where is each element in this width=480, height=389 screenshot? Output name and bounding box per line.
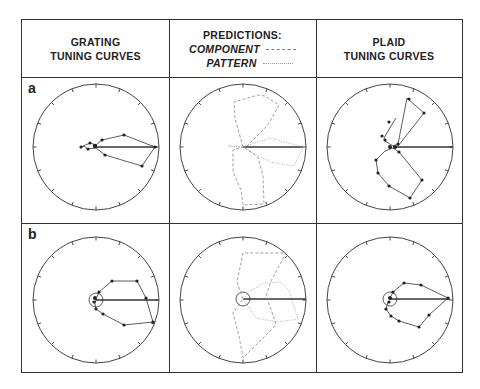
polar-tick [38,323,41,324]
polar-tick [151,170,154,171]
polar-tick [298,170,301,171]
polar-b-grating [89,279,158,326]
polar-tick [198,189,200,191]
polar-tick [38,276,41,277]
polar-tick [151,123,154,124]
polar-tick [413,242,414,245]
polar-tick [366,89,367,92]
polar-tick [413,89,414,92]
polar-tick [432,255,434,257]
polar-tick [219,242,220,245]
polar-tick [51,255,53,257]
polar-tick [198,342,200,344]
polar-tick [332,276,335,277]
polar-b-predictions [233,253,306,358]
polar-tick [185,323,188,324]
polar-tick [332,323,335,324]
polar-plots [0,0,480,389]
polar-tick [285,102,287,104]
polar-tick [298,323,301,324]
polar-tick [285,342,287,344]
polar-tick [266,202,267,205]
polar-tick [345,189,347,191]
polar-tick [266,89,267,92]
polar-tick [298,123,301,124]
polar-tick [345,342,347,344]
polar-tick [198,102,200,104]
polar-tick [185,123,188,124]
polar-tick [119,202,120,205]
polar-a-grating [79,133,157,167]
polar-tick [51,342,53,344]
polar-tick [138,255,140,257]
polar-tick [445,123,448,124]
polar-tick [285,189,287,191]
polar-tick [298,276,301,277]
polar-tick [51,189,53,191]
polar-b-plaid [383,281,450,328]
polar-tick [266,242,267,245]
polar-a-predictions [228,95,303,205]
polar-tick [138,189,140,191]
polar-tick [445,170,448,171]
polar-tick [366,355,367,358]
polar-tick [285,255,287,257]
polar-tick [432,189,434,191]
polar-tick [138,102,140,104]
polar-tick [219,355,220,358]
polar-tick [72,355,73,358]
polar-tick [51,102,53,104]
polar-tick [219,89,220,92]
polar-tick [119,242,120,245]
polar-tick [72,242,73,245]
polar-tick [151,276,154,277]
polar-tick [72,89,73,92]
polar-tick [38,123,41,124]
polar-tick [432,102,434,104]
polar-tick [198,255,200,257]
polar-tick [119,89,120,92]
polar-tick [345,255,347,257]
polar-tick [366,242,367,245]
polar-tick [413,202,414,205]
polar-tick [266,355,267,358]
polar-tick [345,102,347,104]
polar-tick [432,342,434,344]
polar-tick [445,276,448,277]
polar-tick [119,355,120,358]
polar-tick [138,342,140,344]
polar-tick [185,276,188,277]
polar-tick [445,323,448,324]
polar-tick [332,123,335,124]
polar-tick [413,355,414,358]
polar-tick [185,170,188,171]
polar-tick [72,202,73,205]
polar-tick [219,202,220,205]
polar-tick [38,170,41,171]
polar-tick [332,170,335,171]
polar-tick [366,202,367,205]
